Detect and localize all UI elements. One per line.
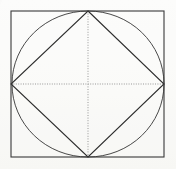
geometry-figure-container: Square with inscribed circle and inscrib… (0, 0, 176, 169)
geometry-figure-svg (0, 0, 176, 169)
